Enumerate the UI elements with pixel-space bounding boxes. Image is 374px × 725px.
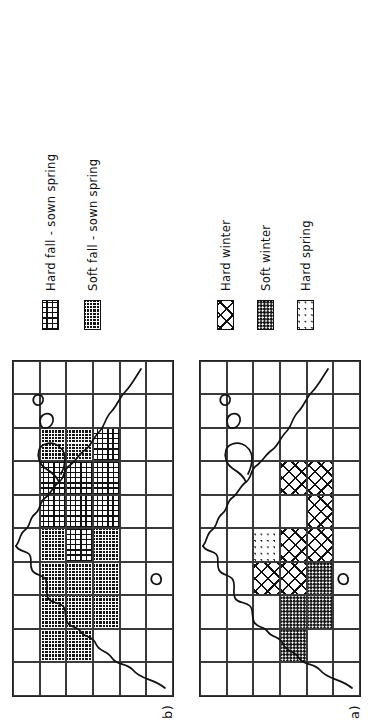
map-cell: [66, 562, 93, 596]
map-cell: [13, 663, 40, 697]
map-cell: [307, 596, 334, 630]
map-cell: [93, 596, 120, 630]
legend-label: Soft winter: [259, 225, 273, 291]
map-cell: [200, 495, 227, 529]
map-cell: [40, 361, 67, 395]
map-cell: [40, 395, 67, 429]
panel-b: b) Hard fall - sown spring Soft fall - s…: [0, 0, 187, 725]
map-cell: [200, 562, 227, 596]
map-cell: [146, 495, 173, 529]
map-cell: [333, 663, 360, 697]
map-cell: [307, 395, 334, 429]
panel-b-legend: Hard fall - sown spring Soft fall - sown…: [36, 30, 156, 330]
swatch-soft-fall-sown-spring-icon: [84, 300, 101, 330]
map-cell: [146, 562, 173, 596]
map-cell: [333, 629, 360, 663]
map-cell: [227, 462, 254, 496]
map-cell: [307, 562, 334, 596]
map-cell: [13, 395, 40, 429]
legend-item-soft-winter: Soft winter: [257, 225, 274, 330]
map-cell: [333, 462, 360, 496]
map-cell: [280, 529, 307, 563]
map-cell: [307, 495, 334, 529]
map-cell: [66, 462, 93, 496]
map-cell: [66, 361, 93, 395]
map-cell: [280, 629, 307, 663]
map-cell: [93, 395, 120, 429]
map-cell: [200, 663, 227, 697]
map-cell: [93, 663, 120, 697]
map-cell: [66, 663, 93, 697]
map-cell: [307, 629, 334, 663]
map-cell: [280, 428, 307, 462]
map-cell: [253, 596, 280, 630]
map-cell: [333, 529, 360, 563]
legend-label: Soft fall - sown spring: [86, 158, 100, 291]
legend-label: Hard fall - sown spring: [44, 154, 58, 291]
map-cell: [307, 361, 334, 395]
map-cell: [146, 663, 173, 697]
map-cell: [40, 428, 67, 462]
map-cell: [120, 529, 147, 563]
map-cell: [13, 361, 40, 395]
map-cell: [13, 529, 40, 563]
map-cell: [227, 529, 254, 563]
map-cell: [333, 428, 360, 462]
panel-b-map: [12, 360, 174, 697]
map-cell: [120, 629, 147, 663]
map-cell: [227, 562, 254, 596]
map-cell: [280, 495, 307, 529]
map-cell: [66, 428, 93, 462]
map-cell: [200, 428, 227, 462]
map-cell: [13, 596, 40, 630]
map-cell: [333, 596, 360, 630]
map-cell: [253, 629, 280, 663]
map-cell: [253, 562, 280, 596]
legend-item-hard-fall-sown-spring: Hard fall - sown spring: [42, 154, 59, 330]
map-cell: [253, 428, 280, 462]
map-cell: [253, 663, 280, 697]
map-cell: [120, 562, 147, 596]
map-cell: [227, 395, 254, 429]
map-cell: [280, 395, 307, 429]
swatch-hard-fall-sown-spring-icon: [42, 300, 59, 330]
map-cell: [93, 629, 120, 663]
map-cell: [280, 596, 307, 630]
map-cell: [40, 629, 67, 663]
map-cell: [13, 428, 40, 462]
map-cell: [40, 562, 67, 596]
map-cell: [40, 495, 67, 529]
map-cell: [200, 395, 227, 429]
legend-label: Hard winter: [219, 220, 233, 291]
map-cell: [120, 395, 147, 429]
map-cell: [227, 495, 254, 529]
map-cell: [280, 462, 307, 496]
figure-canvas: b) Hard fall - sown spring Soft fall - s…: [0, 0, 374, 725]
panel-a-map: [199, 360, 361, 697]
map-cell: [200, 529, 227, 563]
map-cell: [93, 428, 120, 462]
map-cell: [146, 596, 173, 630]
map-cell: [120, 428, 147, 462]
map-cell: [120, 462, 147, 496]
map-cell: [146, 395, 173, 429]
map-cell: [120, 663, 147, 697]
map-cell: [227, 663, 254, 697]
map-cell: [146, 462, 173, 496]
map-cell: [200, 596, 227, 630]
swatch-hard-winter-icon: [217, 300, 234, 330]
map-cell: [93, 495, 120, 529]
map-cell: [40, 663, 67, 697]
map-cell: [307, 663, 334, 697]
map-cell: [307, 529, 334, 563]
map-cell: [200, 462, 227, 496]
map-cell: [227, 629, 254, 663]
map-cell: [253, 495, 280, 529]
legend-item-hard-winter: Hard winter: [217, 220, 234, 330]
panel-a-label: a): [347, 705, 362, 719]
map-cell: [13, 462, 40, 496]
map-cell: [280, 562, 307, 596]
map-cell: [13, 629, 40, 663]
map-cell: [13, 562, 40, 596]
map-cell: [253, 529, 280, 563]
